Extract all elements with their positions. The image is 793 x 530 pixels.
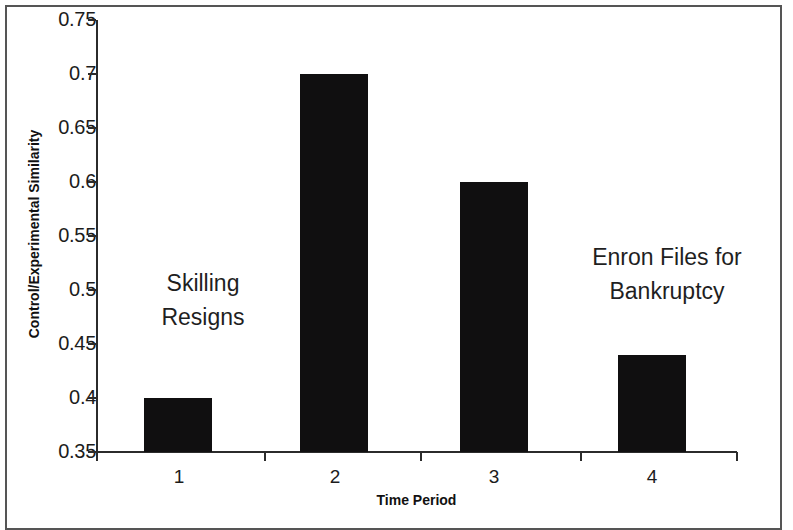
y-tick-mark-0.35 xyxy=(88,451,96,453)
y-tick-mark-0.55 xyxy=(88,235,96,237)
y-tick-label-0.75: 0.75 xyxy=(34,9,96,29)
y-tick-label-0.6: 0.6 xyxy=(34,171,96,191)
y-tick-group-0.6: 0.6 xyxy=(0,181,96,183)
x-tick-label-4: 4 xyxy=(622,466,682,488)
y-tick-label-0.5: 0.5 xyxy=(34,279,96,299)
y-tick-label-0.55: 0.55 xyxy=(34,225,96,245)
x-tick-label-2: 2 xyxy=(305,466,365,488)
x-tick-mark-start xyxy=(96,452,98,461)
y-tick-group-0.75: 0.75 xyxy=(0,19,96,21)
y-tick-mark-0.7 xyxy=(88,73,96,75)
y-tick-label-0.45: 0.45 xyxy=(34,333,96,353)
y-tick-label-0.7: 0.7 xyxy=(34,63,96,83)
bar-period-4 xyxy=(618,355,686,452)
y-axis-line xyxy=(96,20,98,454)
x-tick-mark-end xyxy=(736,452,738,461)
annotation-bankruptcy-line-1: Enron Files for xyxy=(548,240,786,274)
bar-period-3 xyxy=(460,182,528,452)
bar-period-1 xyxy=(144,398,212,452)
x-tick-label-3: 3 xyxy=(464,466,524,488)
bar-period-2 xyxy=(300,74,368,452)
x-axis-title: Time Period xyxy=(96,492,737,508)
x-tick-mark-1 xyxy=(264,452,266,461)
x-tick-mark-2 xyxy=(420,452,422,461)
y-tick-mark-0.5 xyxy=(88,289,96,291)
annotation-enron-files-for-bankruptcy: Enron Files for Bankruptcy xyxy=(548,240,786,308)
y-tick-mark-0.65 xyxy=(88,127,96,129)
y-tick-group-0.55: 0.55 xyxy=(0,235,96,237)
x-tick-mark-3 xyxy=(580,452,582,461)
y-tick-group-0.5: 0.5 xyxy=(0,289,96,291)
y-tick-label-0.4: 0.4 xyxy=(34,387,96,407)
y-tick-mark-0.45 xyxy=(88,343,96,345)
y-tick-mark-0.75 xyxy=(88,19,96,21)
y-tick-mark-0.6 xyxy=(88,181,96,183)
annotation-skilling-line-1: Skilling xyxy=(128,266,278,300)
annotation-skilling-resigns: Skilling Resigns xyxy=(128,266,278,334)
y-tick-group-0.4: 0.4 xyxy=(0,397,96,399)
annotation-skilling-line-2: Resigns xyxy=(128,300,278,334)
y-tick-label-0.35: 0.35 xyxy=(34,441,96,461)
y-tick-group-0.7: 0.7 xyxy=(0,73,96,75)
y-tick-mark-0.4 xyxy=(88,397,96,399)
y-tick-group-0.35: 0.35 xyxy=(0,451,96,453)
y-tick-group-0.45: 0.45 xyxy=(0,343,96,345)
y-tick-label-0.65: 0.65 xyxy=(34,117,96,137)
y-tick-group-0.65: 0.65 xyxy=(0,127,96,129)
annotation-bankruptcy-line-2: Bankruptcy xyxy=(548,274,786,308)
x-tick-label-1: 1 xyxy=(149,466,209,488)
